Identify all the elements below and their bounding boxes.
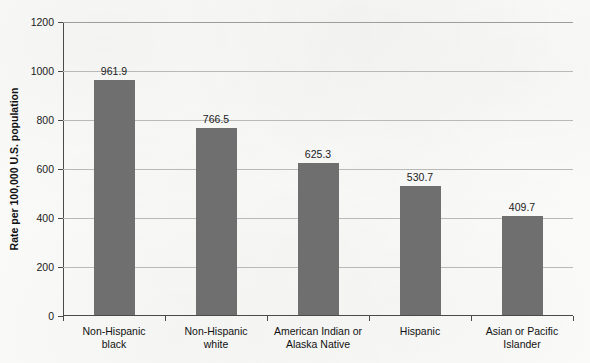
x-axis-category-label: Hispanic: [400, 325, 440, 338]
y-axis-title: Rate per 100,000 U.S. population: [6, 22, 22, 316]
y-axis-tick: [58, 120, 63, 121]
x-axis-label-line: Alaska Native: [274, 338, 362, 351]
x-axis-category-label: American Indian orAlaska Native: [274, 325, 362, 351]
x-axis-label-line: Asian or Pacific: [486, 325, 558, 338]
bar-value-label: 961.9: [101, 65, 127, 77]
x-axis-tick: [471, 316, 472, 321]
x-axis-tick: [369, 316, 370, 321]
bar-value-label: 530.7: [407, 171, 433, 183]
bar: [196, 128, 237, 315]
y-axis-tick-label: 0: [48, 310, 54, 322]
gridline: [63, 22, 573, 23]
x-axis-category-label: Non-Hispanicblack: [82, 325, 145, 351]
x-axis-tick: [165, 316, 166, 321]
gridline: [63, 71, 573, 72]
x-axis-label-line: Hispanic: [400, 325, 440, 338]
x-axis-line: [63, 315, 573, 316]
bar-value-label: 625.3: [305, 148, 331, 160]
x-axis-label-line: white: [184, 338, 247, 351]
x-axis-category-label: Asian or PacificIslander: [486, 325, 558, 351]
y-axis-tick: [58, 218, 63, 219]
x-axis-label-line: Islander: [486, 338, 558, 351]
y-axis-tick-label: 800: [36, 114, 54, 126]
gridline: [63, 120, 573, 121]
y-axis-tick-label: 1000: [31, 65, 54, 77]
x-axis-tick: [267, 316, 268, 321]
bar: [94, 80, 135, 315]
x-axis-tick: [63, 316, 64, 321]
y-axis-tick: [58, 22, 63, 23]
y-axis-tick-label: 1200: [31, 16, 54, 28]
x-axis-tick: [573, 316, 574, 321]
x-axis-label-line: Non-Hispanic: [82, 325, 145, 338]
bar: [502, 216, 543, 315]
x-axis-label-line: Non-Hispanic: [184, 325, 247, 338]
y-axis-tick: [58, 267, 63, 268]
bar-value-label: 409.7: [509, 201, 535, 213]
bar-value-label: 766.5: [203, 113, 229, 125]
x-axis-category-label: Non-Hispanicwhite: [184, 325, 247, 351]
x-axis-label-line: American Indian or: [274, 325, 362, 338]
y-axis-tick-label: 600: [36, 163, 54, 175]
y-axis-tick-label: 400: [36, 212, 54, 224]
y-axis-tick: [58, 71, 63, 72]
bar: [298, 163, 339, 315]
chart-figure: Rate per 100,000 U.S. population 1200100…: [0, 0, 590, 363]
y-axis-tick-label: 200: [36, 261, 54, 273]
plot-area: 120010008006004002000 961.9766.5625.3530…: [63, 22, 573, 316]
x-axis-label-line: black: [82, 338, 145, 351]
y-axis-tick: [58, 169, 63, 170]
bar: [400, 186, 441, 315]
